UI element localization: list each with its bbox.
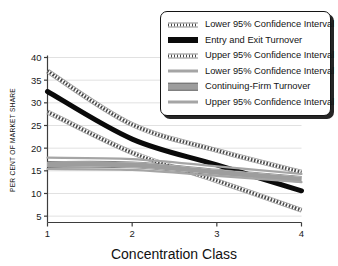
y-tick-label: 15 [31,165,42,176]
legend-item-label: Entry and Exit Turnover [205,36,302,45]
y-tick-label: 10 [31,188,42,199]
x-tick-label: 4 [299,228,304,239]
y-tick-label: 5 [36,211,41,222]
y-tick-labels: 510152025303540 [31,52,42,222]
legend-swatch-icon [168,66,198,77]
legend-item-label: Upper 95% Confidence Interval [205,98,334,107]
legend-swatch-icon [168,19,198,30]
chart-legend: Lower 95% Confidence IntervalEntry and E… [160,11,331,116]
chart-figure: 510152025303540 1234 Concentration Class… [0,0,338,266]
legend-item[interactable]: Upper 95% Confidence Interval [168,48,324,64]
legend-item-label: Lower 95% Confidence Interval [205,67,334,76]
y-tick-label: 20 [31,143,42,154]
x-tick-label: 3 [214,228,219,239]
legend-item-label: Continuing-Firm Turnover [205,82,310,91]
y-tick-label: 30 [31,97,42,108]
y-tick-label: 40 [31,52,42,63]
x-axis-title: Concentration Class [111,246,237,262]
y-tick-label: 25 [31,120,42,131]
y-axis-title: PER CENT OF MARKET SHARE [9,88,16,192]
legend-item[interactable]: Entry and Exit Turnover [168,33,324,49]
y-tick-label: 35 [31,75,42,86]
legend-swatch-icon [168,81,198,92]
x-tick-marks [48,223,302,227]
legend-swatch-icon [168,35,198,46]
legend-swatch-icon [168,97,198,108]
x-tick-label: 1 [45,228,50,239]
legend-item[interactable]: Lower 95% Confidence Interval [168,64,324,80]
legend-item[interactable]: Lower 95% Confidence Interval [168,17,324,33]
x-tick-label: 2 [130,228,135,239]
legend-swatch-icon [168,50,198,61]
legend-item-label: Lower 95% Confidence Interval [205,20,334,29]
legend-item[interactable]: Continuing-Firm Turnover [168,79,324,95]
legend-item-label: Upper 95% Confidence Interval [205,51,334,60]
x-tick-labels: 1234 [45,228,304,239]
legend-item[interactable]: Upper 95% Confidence Interval [168,95,324,111]
